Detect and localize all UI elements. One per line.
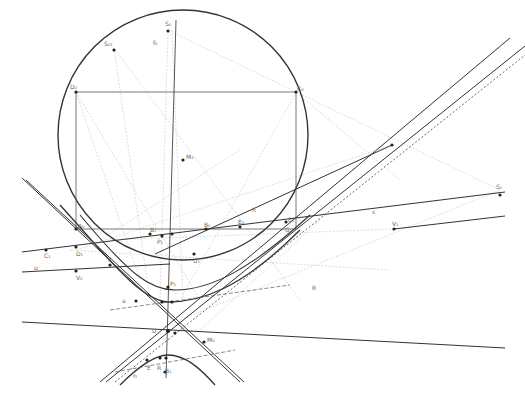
svg-text:C₁: C₁	[44, 252, 51, 259]
svg-text:C₀: C₀	[297, 85, 304, 92]
inscribed-rectangle	[76, 92, 296, 229]
bold-lines	[22, 145, 505, 348]
asymptotes	[22, 38, 525, 382]
svg-text:R: R	[157, 364, 161, 371]
circle-k0	[58, 10, 308, 260]
svg-text:E₀: E₀	[238, 218, 245, 225]
svg-text:S₁: S₁	[496, 183, 503, 190]
svg-text:D₂: D₂	[70, 83, 78, 90]
geometry-diagram: S₀ S₀₁ f₀ D₂ C₀ M₃ A₀ B₁ P₁ B₀ E₀ h s S₁…	[0, 0, 525, 399]
svg-text:h: h	[252, 206, 256, 213]
svg-text:u: u	[34, 264, 38, 271]
svg-text:A₀: A₀	[78, 222, 85, 229]
svg-text:S₀: S₀	[165, 20, 172, 27]
svg-text:E₁: E₁	[288, 216, 295, 223]
svg-text:S₀₁: S₀₁	[104, 40, 113, 47]
svg-text:D₁: D₁	[76, 250, 84, 257]
svg-text:V₂: V₂	[76, 274, 83, 281]
svg-text:B₁: B₁	[150, 226, 157, 233]
svg-text:R: R	[312, 284, 316, 291]
svg-text:V₁: V₁	[392, 220, 399, 227]
svg-text:a: a	[122, 297, 126, 304]
svg-text:n: n	[133, 372, 137, 379]
point-labels: S₀ S₀₁ f₀ D₂ C₀ M₃ A₀ B₁ P₁ B₀ E₀ h s S₁…	[34, 20, 503, 379]
svg-text:B₁: B₁	[165, 367, 172, 374]
svg-text:E: E	[147, 364, 151, 371]
svg-text:M₃: M₃	[186, 153, 194, 160]
axis-f0	[166, 20, 176, 378]
svg-text:s: s	[372, 208, 375, 215]
svg-text:P₁: P₁	[157, 238, 164, 245]
svg-text:P₂: P₂	[170, 280, 177, 287]
svg-text:B₀: B₀	[204, 221, 211, 228]
svg-text:F: F	[108, 256, 112, 263]
svg-text:M₀: M₀	[207, 336, 215, 343]
svg-text:f₀: f₀	[153, 39, 158, 46]
svg-text:U: U	[152, 327, 156, 334]
svg-text:G: G	[285, 226, 290, 233]
svg-text:U₁: U₁	[193, 257, 200, 264]
